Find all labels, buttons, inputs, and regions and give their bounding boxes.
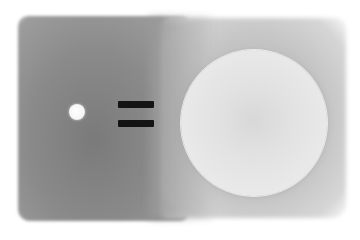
small-white-dot — [69, 104, 85, 120]
equals-bar-top — [118, 101, 154, 108]
equals-bar-bottom — [118, 120, 154, 127]
painting-canvas: = Painted grayscale illustration: small … — [0, 0, 360, 240]
large-pale-circle — [181, 50, 327, 196]
